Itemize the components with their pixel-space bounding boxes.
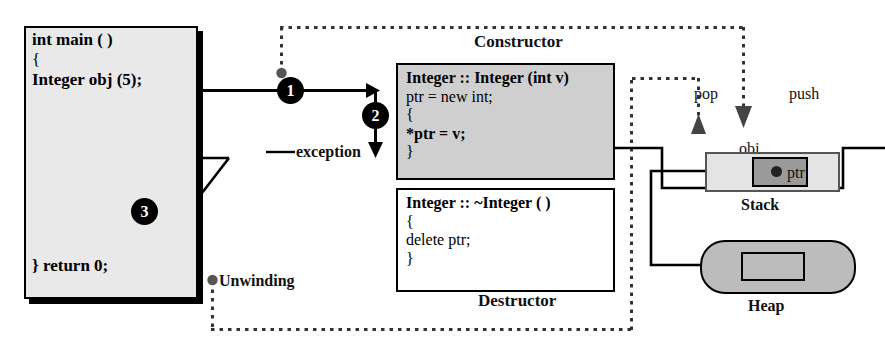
diagram-canvas: int main ( ) { Integer obj (5); } return… xyxy=(0,0,885,351)
main-code-line-1: { xyxy=(32,50,192,70)
pop-label: pop xyxy=(694,85,718,103)
ctor-line-1: ptr = new int; xyxy=(406,88,569,107)
ctor-line-0: Integer :: Integer (int v) xyxy=(406,69,569,88)
dtor-line-2: delete ptr; xyxy=(406,231,551,250)
step-badge-2: 2 xyxy=(362,102,389,129)
constructor-code: Integer :: Integer (int v) ptr = new int… xyxy=(406,69,569,162)
pointer-dot-icon xyxy=(771,166,782,177)
heap-allocated-cell xyxy=(741,252,805,281)
step-badge-1: 1 xyxy=(277,77,304,104)
push-label: push xyxy=(789,85,819,103)
constructor-box: Integer :: Integer (int v) ptr = new int… xyxy=(396,63,615,180)
dtor-line-1: { xyxy=(406,213,551,232)
dtor-line-0: Integer :: ~Integer ( ) xyxy=(406,194,551,213)
destructor-box: Integer :: ~Integer ( ) { delete ptr; } xyxy=(396,188,615,292)
step-badge-3: 3 xyxy=(131,198,158,225)
main-return-line: } return 0; xyxy=(32,256,108,276)
main-code-line-2: Integer obj (5); xyxy=(32,70,192,90)
exception-label: exception xyxy=(296,143,361,161)
main-function-code: int main ( ) { Integer obj (5); xyxy=(32,30,192,90)
ctor-line-2: { xyxy=(406,106,569,125)
stack-pointer-label: ptr xyxy=(787,164,805,182)
destructor-caption: Destructor xyxy=(478,291,556,311)
ctor-line-3: *ptr = v; xyxy=(406,125,569,144)
main-code-line-0: int main ( ) xyxy=(32,30,192,50)
dot-step1-anchor xyxy=(276,68,286,78)
unwinding-label: Unwinding xyxy=(219,272,295,290)
constructor-caption: Constructor xyxy=(474,32,563,52)
destructor-code: Integer :: ~Integer ( ) { delete ptr; } xyxy=(406,194,551,268)
heap-caption: Heap xyxy=(748,297,784,315)
dtor-line-3: } xyxy=(406,250,551,269)
pop-arrowhead xyxy=(691,114,706,134)
dotted-path-pop xyxy=(632,78,700,122)
stack-caption: Stack xyxy=(741,196,779,214)
ctor-line-4: } xyxy=(406,143,569,162)
push-arrowhead xyxy=(735,106,752,128)
dot-unwinding-anchor xyxy=(207,275,217,285)
